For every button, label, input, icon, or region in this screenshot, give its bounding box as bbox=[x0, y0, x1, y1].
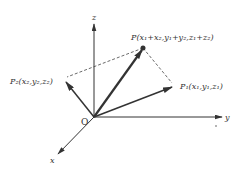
z-axis-label: z bbox=[91, 13, 97, 22]
origin-label: O bbox=[81, 117, 88, 127]
vector-addition-diagram: z y x O P(x₁+x₂,y₁+y₂,z₁+z₂) P₁(x₁,y₁,z₁… bbox=[0, 0, 246, 171]
x-axis bbox=[58, 117, 94, 154]
y-axis-label: y bbox=[224, 113, 230, 122]
point-p2-label: P₂(x₂,y₂,z₂) bbox=[9, 77, 53, 86]
dashed-line-p-to-p2 bbox=[67, 48, 143, 77]
dashed-line-p-to-p1 bbox=[143, 48, 172, 83]
point-p1-label: P₁(x₁,y₁,z₁) bbox=[179, 82, 223, 91]
x-axis-label: x bbox=[50, 156, 55, 165]
point-p-label: P(x₁+x₂,y₁+y₂,z₁+z₂) bbox=[130, 33, 214, 42]
vector-p2 bbox=[66, 82, 94, 117]
point-p-dot bbox=[141, 46, 146, 51]
vector-p-sum bbox=[94, 50, 142, 117]
stray-dot bbox=[215, 125, 217, 127]
